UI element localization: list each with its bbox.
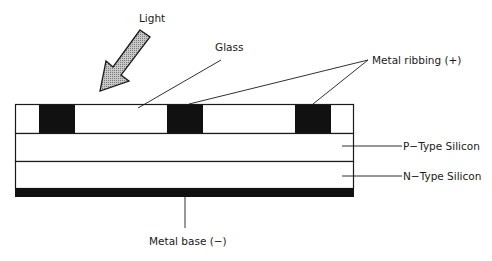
metal-base-label: Metal base (−) <box>149 235 227 247</box>
light-arrow-icon <box>100 30 150 91</box>
light-label: Light <box>139 12 165 24</box>
metal-rib-3 <box>295 105 331 133</box>
metal-base-layer <box>15 188 354 197</box>
n-type-layer <box>16 162 354 189</box>
solar-cell-diagram: Light Glass Metal ribbing (+) P−Type Sil… <box>0 0 492 261</box>
glass-label: Glass <box>215 41 243 53</box>
p-type-layer <box>16 134 354 162</box>
metal-ribbing-label: Metal ribbing (+) <box>372 54 461 66</box>
glass-leader-line <box>138 60 221 108</box>
metal-rib-2 <box>167 105 203 133</box>
n-type-silicon-label: N−Type Silicon <box>403 170 481 182</box>
p-type-silicon-label: P−Type Silicon <box>403 140 480 152</box>
metal-rib-1 <box>39 105 75 133</box>
